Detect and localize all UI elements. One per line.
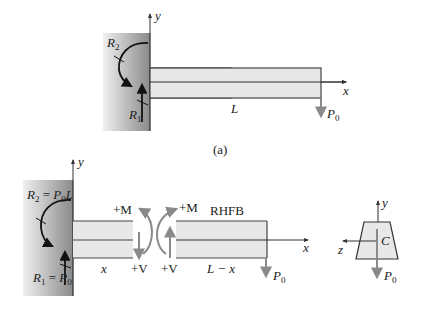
beam-body [150,68,321,98]
right-moment-arrow [157,209,176,254]
left-shear-label: +V [131,261,148,276]
left-moment-label: +M [113,202,132,217]
x-axis-label-b: x [302,240,309,255]
y-axis-label: y [153,8,161,23]
load-label-section: P0 [383,268,397,285]
z-axis-label-section: z [337,242,343,257]
moment-reaction-label-b: R2 = P0L [26,187,73,204]
part-b: y R2 = P0L R1 = P0 x +M +V +M +V x [23,154,309,296]
caption-a: (a) [213,142,227,157]
cross-section: y z C P0 [337,195,398,285]
centroid-label: C [381,233,390,248]
right-shear-label: +V [161,261,178,276]
force-reaction-label-b: R1 = P0 [32,270,72,287]
left-length-label: x [100,261,107,276]
left-moment-arrow [140,209,152,254]
y-axis-label-b: y [76,154,84,169]
y-axis-label-section: y [380,195,388,210]
load-label-b: P0 [272,268,286,285]
x-axis-label: x [342,83,349,98]
beam-diagram: y x R2 R1 L P0 (a) y R2 = [0,0,439,314]
part-a: y x R2 R1 L P0 (a) [103,8,349,157]
right-length-label: L − x [206,261,235,276]
rhfb-label: RHFB [210,203,244,218]
load-label: P0 [326,106,340,123]
length-label: L [230,101,238,116]
right-moment-label: +M [179,200,198,215]
